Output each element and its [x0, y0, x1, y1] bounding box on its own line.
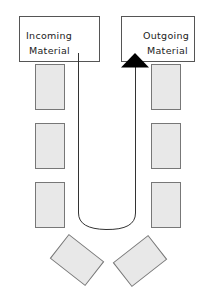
workstation [152, 65, 181, 110]
outgoing-label-line2: Material [147, 45, 188, 56]
bottom-workstations [50, 235, 166, 287]
incoming-label-line1: Incoming [26, 30, 72, 41]
workstation [36, 183, 65, 228]
incoming-label-line2: Material [29, 45, 70, 56]
workstation [36, 124, 65, 169]
material-flow-path [79, 53, 136, 230]
incoming-material-box: Incoming Material [20, 17, 100, 62]
u-shaped-layout-diagram: Incoming Material Outgoing Material [0, 0, 203, 307]
outgoing-label-line1: Outgoing [143, 30, 189, 41]
workstation [36, 65, 65, 110]
workstation [152, 124, 181, 169]
left-workstations [36, 65, 65, 228]
workstation [113, 236, 166, 287]
workstation [50, 235, 103, 286]
outgoing-material-box: Outgoing Material [122, 17, 195, 62]
right-workstations [152, 65, 181, 228]
workstation [152, 183, 181, 228]
